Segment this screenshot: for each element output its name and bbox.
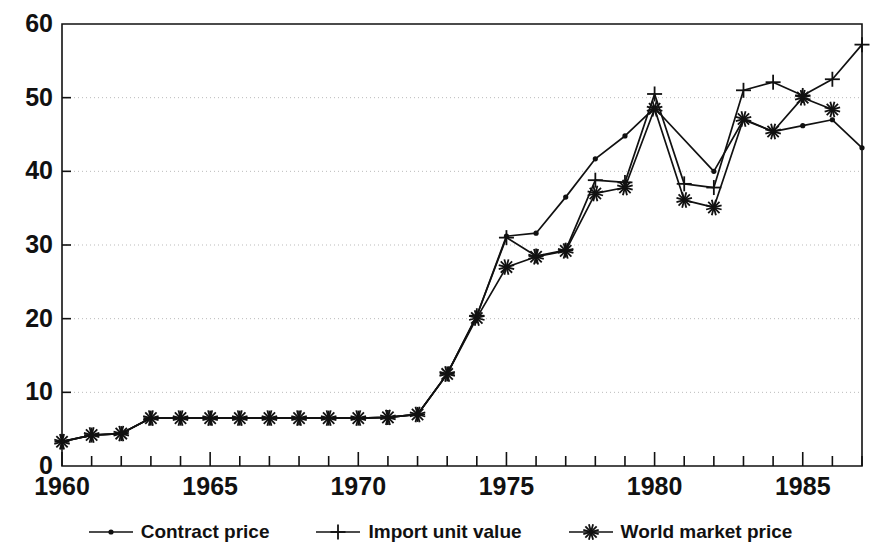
y-tick-label-20: 20 [25,304,53,333]
y-tick-label-10: 10 [25,377,53,406]
legend-label: World market price [621,521,793,543]
data-point-marker-plus [499,230,514,245]
series-line-0 [62,108,862,442]
data-point-marker-plus [331,525,346,540]
data-point-marker-asterisk [736,111,751,126]
y-tick-label-60: 60 [25,9,53,38]
legend-marker-asterisk-icon [568,522,614,542]
x-tick-label-1970: 1970 [318,472,398,501]
data-point-marker-dot [563,195,568,200]
data-point-marker-dot [533,231,538,236]
data-point-marker-dot [622,133,627,138]
data-point-marker-asterisk [676,192,691,207]
data-point-marker-dot [593,156,598,161]
data-point-marker-dot [830,117,835,122]
legend-marker-plus-icon [315,522,361,542]
x-tick-label-1985: 1985 [763,472,843,501]
legend-marker-dot-icon [88,522,134,542]
legend-item-dot[interactable]: Contract price [88,521,270,543]
data-point-marker-dot [800,123,805,128]
x-tick-label-1965: 1965 [170,472,250,501]
data-point-marker-asterisk [706,200,721,215]
data-point-marker-dot [108,529,113,534]
y-tick-label-40: 40 [25,156,53,185]
x-tick-label-1980: 1980 [615,472,695,501]
legend-label: Import unit value [368,521,521,543]
data-point-marker-asterisk [499,259,514,274]
y-tick-label-30: 30 [25,230,53,259]
series-line-1 [62,45,862,442]
data-point-marker-plus [647,86,662,101]
series-line-2 [62,98,832,442]
legend-label: Contract price [141,521,270,543]
plot-area [0,0,880,558]
data-point-marker-plus [766,75,781,90]
line-chart: 0102030405060 196019651970197519801985 C… [0,0,880,558]
data-point-marker-asterisk [825,102,840,117]
data-point-marker-plus [588,173,603,188]
data-point-marker-dot [859,145,864,150]
chart-legend: Contract priceImport unit valueWorld mar… [0,512,880,552]
x-tick-label-1960: 1960 [22,472,102,501]
data-point-marker-asterisk [765,124,780,139]
legend-item-plus[interactable]: Import unit value [315,521,521,543]
data-point-marker-plus [736,83,751,98]
y-tick-label-50: 50 [25,83,53,112]
x-tick-label-1975: 1975 [466,472,546,501]
legend-item-asterisk[interactable]: World market price [568,521,793,543]
data-point-marker-dot [711,169,716,174]
